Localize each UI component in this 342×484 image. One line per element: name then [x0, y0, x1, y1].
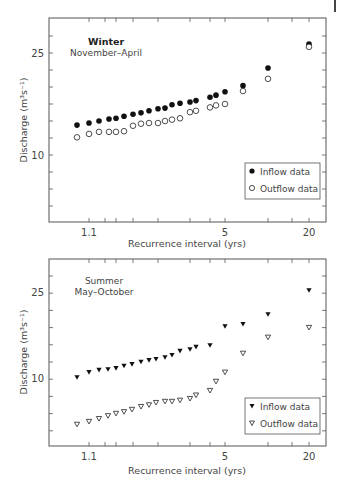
inflow-point — [96, 118, 102, 124]
inflow-point — [187, 347, 192, 352]
page-edge-mark — [334, 0, 336, 12]
inflow-point — [187, 99, 193, 105]
outflow-point — [162, 118, 168, 124]
outflow-point — [187, 396, 192, 401]
winter-xtick-20: 20 — [303, 227, 316, 238]
inflow-point — [222, 89, 228, 95]
outflow-point — [169, 117, 175, 123]
outflow-point — [193, 393, 198, 398]
outflow-point — [121, 128, 127, 134]
outflow-point — [169, 399, 174, 404]
summer-ytick-25: 25 — [31, 287, 44, 298]
summer-legend: Inflow data Outflow data — [245, 398, 320, 434]
outflow-point — [306, 44, 312, 50]
outflow-point — [162, 399, 167, 404]
outflow-point — [213, 103, 219, 109]
winter-y-axis-label: Discharge (m³s⁻¹) — [18, 78, 29, 163]
inflow-point — [96, 368, 101, 373]
inflow-point — [162, 355, 167, 360]
outflow-point — [146, 120, 152, 126]
outflow-point — [207, 105, 213, 111]
inflow-point — [177, 349, 182, 354]
outflow-point — [146, 403, 151, 408]
outflow-point — [222, 101, 228, 107]
inflow-point — [265, 312, 270, 317]
inflow-point — [213, 92, 219, 98]
outflow-point — [177, 115, 183, 121]
inflow-point — [146, 358, 151, 363]
inflow-point — [207, 94, 213, 100]
winter-xtick-1-1: 1.1 — [81, 227, 97, 238]
outflow-point — [138, 404, 143, 409]
outflow-point — [113, 411, 118, 416]
inflow-point — [113, 366, 118, 371]
outflow-point — [96, 416, 101, 421]
inflow-point — [113, 115, 119, 121]
winter-x-axis-label: Recurrence interval (yrs) — [128, 238, 246, 249]
outflow-point — [96, 129, 102, 135]
winter-subtitle: November–April — [70, 48, 142, 58]
inflow-point — [162, 105, 168, 111]
outflow-point — [113, 129, 119, 135]
outflow-point — [222, 370, 227, 375]
winter-xtick-5: 5 — [222, 227, 228, 238]
outflow-point — [74, 135, 80, 141]
inflow-point — [169, 102, 175, 108]
inflow-point — [129, 362, 134, 367]
outflow-point — [265, 335, 270, 340]
outflow-point — [121, 410, 126, 415]
inflow-point — [169, 353, 174, 358]
inflow-point — [74, 375, 79, 380]
outflow-point — [306, 325, 311, 330]
open-circle-icon — [249, 185, 254, 190]
winter-legend-outflow: Outflow data — [260, 184, 318, 194]
inflow-point — [86, 120, 92, 126]
summer-ytick-10: 10 — [31, 373, 44, 384]
winter-ytick-25: 25 — [31, 48, 44, 59]
inflow-point — [222, 324, 227, 329]
inflow-point — [130, 111, 136, 117]
summer-xtick-5: 5 — [222, 451, 228, 462]
winter-ytick-10: 10 — [31, 150, 44, 161]
outflow-point — [105, 414, 110, 419]
outflow-point — [177, 398, 182, 403]
inflow-point — [74, 122, 80, 128]
outflow-point — [207, 388, 212, 393]
outflow-point — [153, 400, 158, 405]
outflow-point — [213, 379, 218, 384]
summer-legend-outflow: Outflow data — [260, 419, 318, 429]
inflow-point — [146, 108, 152, 114]
inflow-point — [138, 360, 143, 365]
inflow-point — [306, 288, 311, 293]
inflow-point — [105, 367, 110, 372]
winter-chart: 25 10 1.1 5 20 Recurrence interval (yrs)… — [18, 18, 326, 249]
outflow-point — [130, 123, 136, 129]
inflow-point — [86, 370, 91, 375]
winter-title: Winter — [88, 36, 124, 47]
inflow-point — [138, 110, 144, 116]
inflow-point — [240, 83, 246, 89]
outflow-point — [193, 108, 199, 114]
winter-legend: Inflow data Outflow data — [245, 163, 320, 199]
summer-subtitle: May–October — [74, 287, 133, 297]
outflow-point — [240, 351, 245, 356]
summer-xtick-1-1: 1.1 — [81, 451, 97, 462]
outflow-point — [86, 419, 91, 424]
filled-circle-icon — [249, 168, 254, 173]
outflow-point — [106, 129, 112, 135]
inflow-point — [121, 364, 126, 369]
inflow-point — [207, 343, 212, 348]
outflow-point — [129, 407, 134, 412]
outflow-point — [86, 131, 92, 137]
summer-chart: 25 10 1.1 5 20 Recurrence interval (yrs)… — [18, 259, 326, 476]
inflow-point — [106, 116, 112, 122]
outflow-point — [240, 88, 246, 94]
inflow-point — [177, 101, 183, 107]
inflow-point — [240, 322, 245, 327]
outflow-point — [155, 120, 161, 126]
inflow-point — [155, 106, 161, 112]
summer-legend-inflow: Inflow data — [260, 402, 310, 412]
summer-x-axis-label: Recurrence interval (yrs) — [128, 465, 246, 476]
inflow-point — [193, 345, 198, 350]
inflow-point — [121, 113, 127, 119]
